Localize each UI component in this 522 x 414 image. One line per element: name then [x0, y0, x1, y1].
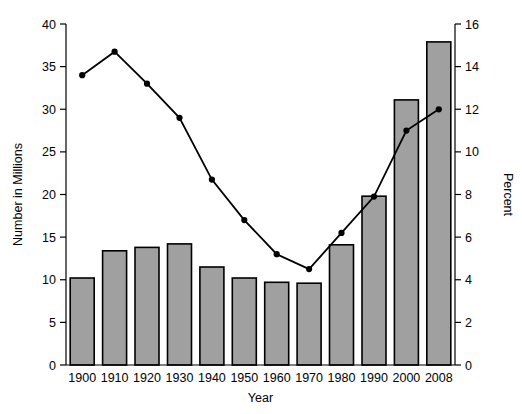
y-right-tick-label-4: 4: [465, 273, 472, 287]
y-right-tick-label-6: 6: [465, 231, 472, 245]
chart-figure: 0510152025303540024681012141619001910192…: [0, 0, 522, 414]
x-tick-label-1910: 1910: [101, 371, 129, 385]
x-tick-label-2000: 2000: [392, 371, 420, 385]
y-right-tick-label-16: 16: [465, 18, 479, 32]
y-left-tick-label-40: 40: [42, 18, 56, 32]
bar-1980: [330, 245, 354, 365]
percent-point-1990: [371, 194, 377, 200]
bar-1960: [265, 282, 289, 365]
y-left-tick-label-25: 25: [42, 145, 56, 159]
percent-point-1920: [144, 81, 150, 87]
bar-1990: [362, 196, 386, 365]
x-tick-label-1950: 1950: [230, 371, 258, 385]
x-tick-label-1980: 1980: [328, 371, 356, 385]
percent-point-1930: [176, 115, 182, 121]
x-tick-label-1920: 1920: [133, 371, 161, 385]
percent-point-1960: [274, 251, 280, 257]
x-tick-label-1960: 1960: [263, 371, 291, 385]
x-tick-label-1930: 1930: [166, 371, 194, 385]
y-left-tick-label-5: 5: [49, 316, 56, 330]
percent-point-1910: [112, 49, 118, 55]
y-axis-right-title: Percent: [501, 173, 515, 217]
bar-1920: [135, 247, 159, 365]
x-tick-label-1940: 1940: [198, 371, 226, 385]
bar-2000: [394, 100, 418, 365]
bar-1970: [297, 283, 321, 365]
bar-2008: [427, 42, 451, 365]
x-tick-label-1990: 1990: [360, 371, 388, 385]
x-tick-label-2008: 2008: [425, 371, 453, 385]
percent-point-1950: [241, 217, 247, 223]
y-left-tick-label-35: 35: [42, 60, 56, 74]
percent-point-1940: [209, 177, 215, 183]
percent-point-1900: [79, 72, 85, 78]
bar-1950: [232, 278, 256, 365]
y-left-tick-label-10: 10: [42, 273, 56, 287]
percent-point-1970: [306, 266, 312, 272]
x-axis-title: Year: [248, 391, 273, 405]
y-right-tick-label-8: 8: [465, 188, 472, 202]
y-left-tick-label-15: 15: [42, 231, 56, 245]
chart-canvas: 0510152025303540024681012141619001910192…: [0, 0, 522, 414]
y-right-tick-label-2: 2: [465, 316, 472, 330]
y-left-tick-label-30: 30: [42, 103, 56, 117]
y-right-tick-label-14: 14: [465, 60, 479, 74]
y-left-tick-label-0: 0: [49, 359, 56, 373]
y-right-tick-label-12: 12: [465, 103, 479, 117]
y-left-tick-label-20: 20: [42, 188, 56, 202]
x-tick-label-1900: 1900: [68, 371, 96, 385]
y-right-tick-label-0: 0: [465, 359, 472, 373]
percent-point-1980: [338, 230, 344, 236]
percent-point-2008: [436, 106, 442, 112]
bar-1940: [200, 267, 224, 365]
bar-1910: [103, 251, 127, 365]
y-axis-left-title: Number in Millions: [11, 143, 25, 246]
y-right-tick-label-10: 10: [465, 145, 479, 159]
bar-1900: [70, 278, 94, 365]
percent-point-2000: [403, 128, 409, 134]
bar-1930: [168, 244, 192, 365]
x-tick-label-1970: 1970: [295, 371, 323, 385]
